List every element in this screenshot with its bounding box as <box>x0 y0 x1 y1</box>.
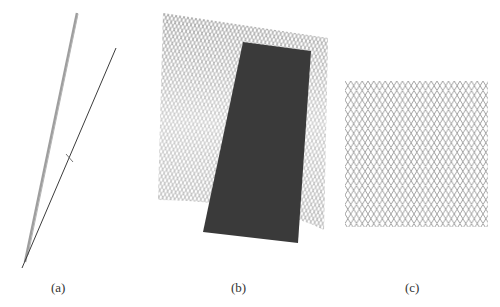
panel-a-label: (a) <box>51 280 65 296</box>
converging-lines-graphic <box>0 0 140 270</box>
diamond-mesh-graphic <box>340 75 495 235</box>
panel-c-figure <box>340 75 495 235</box>
panel-c-label: (c) <box>405 280 419 296</box>
panel-b-figure <box>140 0 340 270</box>
panel-b-label: (b) <box>231 280 246 296</box>
tilted-mesh-graphic <box>140 0 340 270</box>
panel-a-figure <box>0 0 140 270</box>
